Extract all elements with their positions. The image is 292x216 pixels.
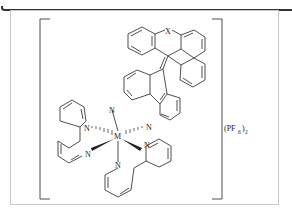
- nitrogen-label: N: [109, 106, 115, 115]
- nitrogen-label: N: [84, 124, 90, 133]
- molecule-diagram: X N N N N N N M (PF 6 ) 2: [0, 0, 292, 216]
- svg-text:2: 2: [245, 129, 248, 135]
- svg-text:6: 6: [238, 129, 241, 135]
- right-bracket: [212, 19, 222, 199]
- counterion-label: (PF 6 ) 2: [224, 124, 248, 135]
- nitrogen-label: N: [144, 141, 150, 150]
- svg-text:(PF: (PF: [224, 124, 236, 133]
- heteroatom-label: X: [165, 27, 171, 36]
- nitrogen-label: N: [115, 161, 121, 170]
- nitrogen-label: N: [146, 123, 152, 132]
- nitrogen-label: N: [85, 150, 91, 159]
- metal-label: M: [114, 132, 121, 141]
- left-bracket: [40, 19, 50, 199]
